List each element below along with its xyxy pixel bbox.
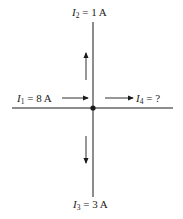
circuit-diagram — [0, 0, 183, 219]
label-i3: I3 = 3 A — [73, 198, 108, 214]
label-i2: I2 = 1 A — [72, 6, 107, 22]
label-i1: I1 = 8 A — [17, 92, 52, 108]
label-i4: I4 = ? — [136, 92, 160, 108]
junction-node — [90, 105, 95, 110]
